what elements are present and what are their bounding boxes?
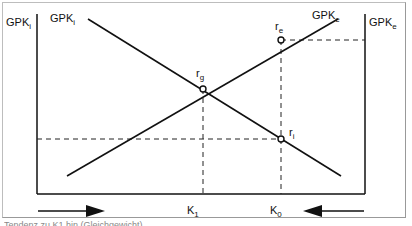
x-label-k1: K1 xyxy=(187,204,199,219)
point-label-re: re xyxy=(275,20,284,35)
x-label-k0: K0 xyxy=(270,204,282,219)
arrow-right-icon xyxy=(38,205,105,217)
point-rg xyxy=(200,86,206,92)
curve-label-gpk-e: GPKe xyxy=(312,9,340,24)
left-axis-label: GPKi xyxy=(6,16,31,31)
diagram-canvas: GPKi GPKe GPKi GPKe rg re ri K1 K0 xyxy=(0,0,412,226)
point-label-ri: ri xyxy=(289,126,295,141)
right-axis-label: GPKe xyxy=(369,16,397,31)
curve-gpk-i xyxy=(88,19,341,176)
point-ri xyxy=(278,136,284,142)
arrow-left-icon xyxy=(303,205,364,217)
point-label-rg: rg xyxy=(196,67,204,82)
figure-caption: Tendenz zu K1 hin (Gleichgewicht) xyxy=(4,219,143,226)
curve-label-gpk-i: GPKi xyxy=(50,12,75,27)
point-re xyxy=(278,37,284,43)
